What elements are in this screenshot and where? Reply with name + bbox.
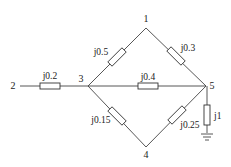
branch-3-1: [88, 28, 146, 86]
branch-4-5: [146, 86, 206, 147]
node-label-1: 1: [144, 13, 149, 24]
impedance-label-j0.3: j0.3: [180, 43, 196, 53]
impedance-label-j1: j1: [213, 111, 222, 121]
impedance-label-j0.5: j0.5: [93, 47, 109, 57]
impedance-label-j0.15: j0.15: [90, 115, 111, 125]
impedance-j1: [204, 105, 210, 125]
node-label-2: 2: [11, 80, 16, 91]
impedance-label-j0.25: j0.25: [179, 120, 200, 130]
impedance-label-j0.4: j0.4: [140, 72, 156, 82]
node-label-5: 5: [210, 80, 215, 91]
ground-icon: [201, 134, 213, 140]
impedance-j0.2: [40, 83, 60, 89]
branch-5-ground: [201, 86, 213, 140]
impedance-j0.4: [138, 83, 158, 89]
node-label-3: 3: [79, 73, 84, 84]
impedance-label-j0.2: j0.2: [42, 71, 58, 81]
node-label-4: 4: [144, 149, 149, 160]
branch-3-5: [88, 83, 206, 89]
impedance-j0.5: [108, 48, 126, 66]
network-diagram: 1 2 3 4 5 j0.2 j0.5 j0.3 j0.4 j0.15 j0.2…: [0, 0, 231, 167]
